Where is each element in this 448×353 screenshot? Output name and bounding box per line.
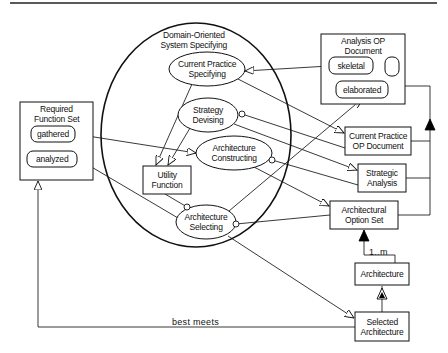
- elaborated-state-label: elaborated: [343, 85, 381, 95]
- multiplicity: 1..m: [369, 247, 388, 257]
- selected-architecture-label: Architecture: [361, 327, 404, 337]
- unnamed-state-state[interactable]: [385, 57, 399, 76]
- analysis-op-document-label: Document: [345, 46, 382, 56]
- utility-function-label: Utility: [158, 170, 177, 180]
- connector-circle-icon: [239, 111, 245, 117]
- aggregation-triangle-icon: [359, 230, 369, 241]
- connector-circle-icon: [233, 221, 239, 227]
- current-practice-specifying-label: Current Practice: [178, 59, 236, 69]
- domain-oriented-system-specifying-label: System Specifying: [161, 40, 228, 50]
- skeletal-to-cps-edge[interactable]: [245, 66, 329, 71]
- skeletal-state-label: skeletal: [338, 61, 365, 71]
- architecture-constructing-label: Constructing: [212, 153, 257, 163]
- strategy-to-utility-edge[interactable]: [168, 128, 190, 165]
- strategic-analysis-label: Strategic: [366, 168, 398, 178]
- analyzed-state-label: analyzed: [36, 154, 68, 164]
- required-function-set-label: Function Set: [34, 114, 79, 124]
- domain-oriented-system-specifying-label: Domain-Oriented: [163, 30, 225, 40]
- current-practice-specifying-label: Specifying: [189, 69, 226, 79]
- architecture-selecting-label: Selecting: [190, 222, 223, 232]
- current-practice-op-document-label: Current Practice: [349, 131, 407, 141]
- architecture-constructing-label: Architecture: [213, 143, 256, 153]
- best-meets-label: best meets: [172, 317, 219, 327]
- strategic-analysis-label: Analysis: [367, 178, 397, 188]
- utility-function-label: Function: [152, 180, 183, 190]
- architectural-option-set-label: Architectural: [342, 205, 387, 215]
- connector-circle-icon: [184, 204, 190, 210]
- strategy-devising-label: Strategy: [193, 105, 223, 115]
- architecture-selecting-label: Architecture: [185, 212, 228, 222]
- connector-circle-icon: [269, 157, 275, 163]
- selecting-to-selected-edge[interactable]: [228, 236, 354, 318]
- selected-architecture-label: Selected: [367, 317, 398, 327]
- analysis-op-document-label: Analysis OP: [341, 36, 385, 46]
- optionset-to-selecting-edge[interactable]: [236, 215, 330, 224]
- utility-to-selecting-edge[interactable]: [165, 194, 187, 207]
- required-function-set-label: Required: [40, 104, 73, 114]
- current-practice-op-document-label: OP Document: [353, 141, 404, 151]
- architectural-option-set-label: Option Set: [345, 215, 383, 225]
- best-meets-edge[interactable]: [38, 181, 355, 327]
- architecture-label: Architecture: [361, 269, 404, 279]
- gathered-state-label: gathered: [37, 129, 69, 139]
- aggregation-triangle-icon: [425, 119, 435, 130]
- strategy-devising-label: Devising: [193, 115, 224, 125]
